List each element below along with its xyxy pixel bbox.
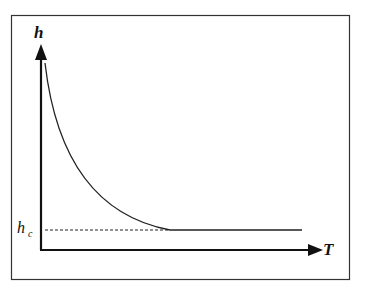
h-curve [45, 63, 302, 230]
frame-border [12, 16, 350, 280]
x-axis-label: T [323, 240, 333, 260]
x-axis-arrow-icon [308, 244, 323, 256]
y-axis-label: h [34, 23, 43, 43]
hc-label-subscript: c [28, 228, 32, 239]
diagram-canvas [0, 0, 365, 288]
hc-label: hc [17, 219, 32, 237]
y-axis-arrow-icon [35, 44, 47, 60]
hc-label-main: h [17, 219, 25, 236]
